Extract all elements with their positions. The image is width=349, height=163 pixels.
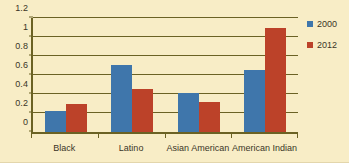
legend-item-2012: 2012: [307, 40, 349, 50]
plot-area: 00.20.40.60.811.2: [31, 18, 298, 134]
x-axis-label-text: Latino: [119, 143, 144, 153]
x-tick-mark: [231, 134, 232, 138]
bar-2012-american-indian: [265, 28, 286, 133]
chart-legend: 2000 2012: [307, 19, 349, 61]
x-axis-label-text: Asian American: [167, 143, 230, 153]
bar-2000-black: [45, 111, 66, 132]
x-axis: BlackLatinoAsian AmericanAmerican Indian: [31, 134, 298, 160]
y-tick-label: 0.2: [15, 98, 28, 108]
x-axis-label-american-indian: American Indian: [231, 134, 298, 160]
bar-group: [99, 18, 165, 132]
x-axis-label-text: American Indian: [232, 143, 297, 153]
y-tick-label: 1.2: [15, 3, 28, 13]
x-axis-label-latino: Latino: [98, 134, 165, 160]
legend-label-2000: 2000: [317, 19, 337, 29]
x-tick-mark: [165, 134, 166, 138]
bar-group: [166, 18, 232, 132]
x-axis-label-asian-american: Asian American: [165, 134, 232, 160]
x-tick-mark: [98, 134, 99, 138]
bar-2012-latino: [132, 89, 153, 132]
legend-swatch-icon-2000: [307, 21, 313, 27]
legend-label-2012: 2012: [317, 40, 337, 50]
bar-2000-asian-american: [178, 93, 199, 132]
legend-item-2000: 2000: [307, 19, 349, 29]
x-tick-mark: [297, 134, 298, 138]
bar-chart-figure: 00.20.40.60.811.2 BlackLatinoAsian Ameri…: [0, 0, 349, 163]
legend-swatch-icon-2012: [307, 42, 313, 48]
bar-2000-latino: [111, 65, 132, 132]
bars-layer: [33, 18, 298, 132]
y-tick-label: 0: [23, 117, 28, 127]
bar-2012-black: [66, 104, 87, 132]
x-tick-mark: [31, 134, 32, 138]
y-tick-label: 0.8: [15, 41, 28, 51]
bar-group: [33, 18, 99, 132]
y-tick-label: 1: [23, 22, 28, 32]
x-axis-label-text: Black: [53, 143, 75, 153]
bar-group: [232, 18, 298, 132]
y-tick-label: 0.4: [15, 79, 28, 89]
bar-2012-asian-american: [199, 102, 220, 132]
bar-2000-american-indian: [244, 70, 265, 132]
x-axis-label-black: Black: [31, 134, 98, 160]
y-tick-label: 0.6: [15, 60, 28, 70]
